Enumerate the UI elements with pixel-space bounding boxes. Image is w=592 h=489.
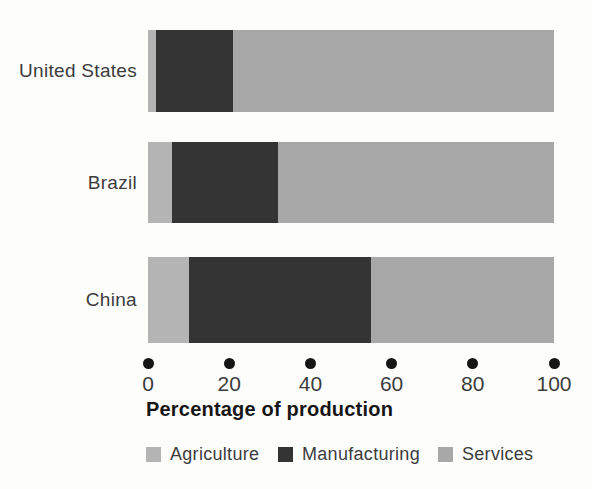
axis-tick-dot: [305, 358, 316, 369]
axis-tick-dot: [549, 358, 560, 369]
legend-label: Services: [462, 444, 533, 465]
axis-tick-label: 0: [118, 372, 178, 396]
axis-tick-label: 40: [280, 372, 340, 396]
bar-segment-agriculture: [148, 257, 189, 343]
stacked-bar: [148, 30, 554, 112]
legend-swatch-services: [438, 447, 453, 462]
category-label: China: [0, 257, 137, 343]
stacked-bar-chart: United StatesBrazilChina 020406080100 Pe…: [0, 0, 592, 489]
bar-row: Brazil: [0, 142, 592, 223]
bar-segment-manufacturing: [172, 142, 278, 223]
legend-swatch-manufacturing: [278, 447, 293, 462]
bar-segment-manufacturing: [189, 257, 372, 343]
bar-segment-services: [371, 257, 554, 343]
textbook-figure-page: United StatesBrazilChina 020406080100 Pe…: [0, 0, 592, 489]
x-axis-title: Percentage of production: [146, 398, 393, 421]
axis-tick-label: 60: [362, 372, 422, 396]
bar-segment-services: [233, 30, 554, 112]
stacked-bar: [148, 142, 554, 223]
bar-segment-agriculture: [148, 30, 156, 112]
bar-segment-services: [278, 142, 554, 223]
category-label: United States: [0, 30, 137, 112]
axis-tick-dot: [224, 358, 235, 369]
legend-label: Agriculture: [170, 444, 259, 465]
axis-tick-dot: [467, 358, 478, 369]
legend-item: Agriculture: [146, 444, 259, 464]
legend-label: Manufacturing: [302, 444, 420, 465]
axis-tick-label: 20: [199, 372, 259, 396]
bar-segment-agriculture: [148, 142, 172, 223]
category-label: Brazil: [0, 142, 137, 223]
axis-tick-dot: [143, 358, 154, 369]
bar-segment-manufacturing: [156, 30, 233, 112]
bar-row: United States: [0, 30, 592, 112]
axis-tick-label: 100: [524, 372, 584, 396]
legend-item: Services: [438, 444, 533, 464]
axis-tick-dot: [386, 358, 397, 369]
legend-item: Manufacturing: [278, 444, 420, 464]
legend-swatch-agriculture: [146, 447, 161, 462]
stacked-bar: [148, 257, 554, 343]
axis-tick-label: 80: [443, 372, 503, 396]
bar-row: China: [0, 257, 592, 343]
